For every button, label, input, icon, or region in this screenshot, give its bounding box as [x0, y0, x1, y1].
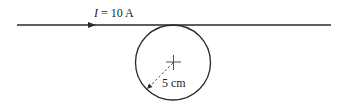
- diagram-svg: I = 10 A 5 cm: [0, 0, 343, 107]
- diagram-canvas: I = 10 A 5 cm: [0, 0, 343, 107]
- radius-label: 5 cm: [162, 76, 186, 90]
- current-label: I = 10 A: [93, 6, 134, 20]
- radius-arrow-icon: [147, 84, 153, 90]
- current-arrow-icon: [88, 22, 96, 28]
